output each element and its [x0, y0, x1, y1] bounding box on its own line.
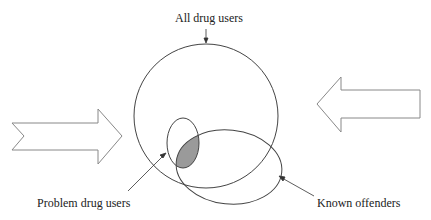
all-drug-users-circle [134, 44, 278, 188]
known-offenders-label: Known offenders [317, 196, 400, 211]
right-arrow-icon [317, 77, 420, 132]
known-offenders-pointer [282, 178, 314, 196]
overlap-region [172, 125, 285, 210]
known-offenders-ellipse [172, 125, 285, 210]
left-arrow-icon [12, 109, 122, 164]
diagram-graphic [0, 0, 431, 220]
problem-drug-users-pointer [128, 156, 163, 191]
all-drug-users-label: All drug users [175, 11, 243, 26]
pointer-head-icon [160, 153, 166, 158]
problem-drug-users-label: Problem drug users [37, 196, 130, 211]
venn-diagram: All drug users Problem drug users Known … [0, 0, 431, 220]
pointer-head-icon [204, 38, 208, 43]
